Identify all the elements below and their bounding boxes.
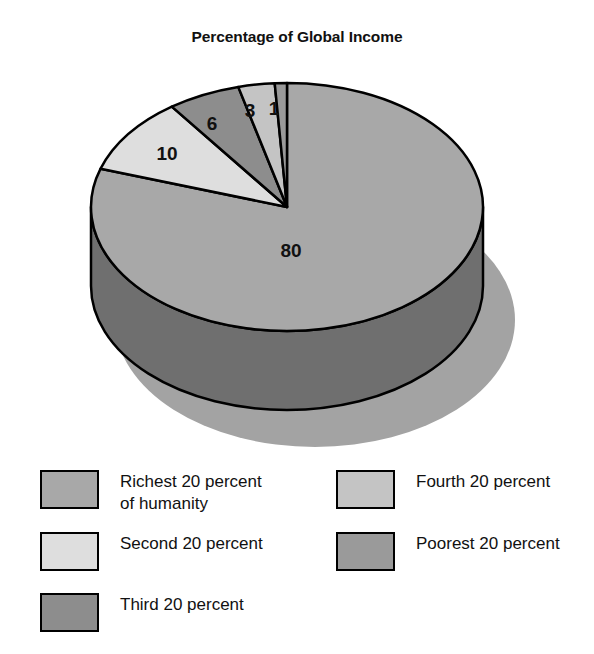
legend-label-second: Second 20 percent xyxy=(120,532,263,555)
legend-swatch-second xyxy=(40,532,99,571)
legend-swatch-richest xyxy=(40,470,99,509)
legend-swatch-third xyxy=(40,593,99,632)
legend-swatch-fourth xyxy=(336,470,395,509)
legend-label-richest: Richest 20 percent of humanity xyxy=(120,470,262,514)
legend-item-second[interactable]: Second 20 percent xyxy=(40,532,263,571)
legend-item-fourth[interactable]: Fourth 20 percent xyxy=(336,470,550,509)
legend-item-poorest[interactable]: Poorest 20 percent xyxy=(336,532,560,571)
slice-value-fourth: 3 xyxy=(245,100,256,121)
figure-container: Percentage of Global Income 8010631 Rich… xyxy=(0,0,594,654)
slice-value-poorest: 1 xyxy=(269,98,280,119)
slice-value-richest: 80 xyxy=(280,240,301,261)
legend-item-third[interactable]: Third 20 percent xyxy=(40,593,244,632)
legend-swatch-poorest xyxy=(336,532,395,571)
legend-item-richest[interactable]: Richest 20 percent of humanity xyxy=(40,470,262,514)
slice-value-third: 6 xyxy=(207,113,218,134)
legend-label-third: Third 20 percent xyxy=(120,593,244,616)
slice-value-second: 10 xyxy=(156,143,177,164)
pie-chart-3d: 8010631 xyxy=(0,0,594,462)
pie-top-face xyxy=(91,83,483,331)
legend-label-poorest: Poorest 20 percent xyxy=(416,532,560,555)
legend-label-fourth: Fourth 20 percent xyxy=(416,470,550,493)
chart-legend: Richest 20 percent of humanitySecond 20 … xyxy=(0,462,594,654)
